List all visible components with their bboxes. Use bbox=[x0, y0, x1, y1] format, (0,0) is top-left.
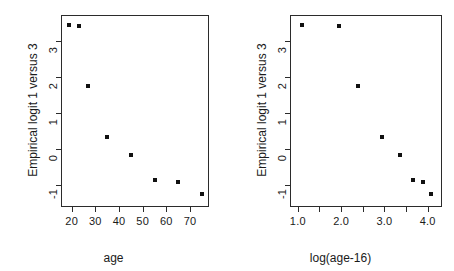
x-axis-tick-label: 60 bbox=[160, 215, 173, 227]
x-axis-tick bbox=[95, 207, 96, 212]
x-axis-tick-label: 50 bbox=[136, 215, 149, 227]
y-axis-tick-label: -1 bbox=[47, 183, 59, 205]
y-axis-tick-label: 1 bbox=[276, 111, 288, 133]
data-point bbox=[86, 84, 90, 88]
data-point bbox=[129, 153, 133, 157]
x-axis-tick-label: 4.0 bbox=[420, 215, 436, 227]
y-axis-tick-label: 1 bbox=[47, 111, 59, 133]
y-axis-tick-label: 2 bbox=[276, 75, 288, 97]
x-axis-tick bbox=[363, 207, 364, 212]
scatter-plot-figure: -10123203040506070 Empirical logit 1 ver… bbox=[0, 0, 454, 271]
x-axis-tick bbox=[143, 207, 144, 212]
x-axis-tick bbox=[166, 207, 167, 212]
y-axis-title-right: Empirical logit 1 versus 3 bbox=[255, 15, 269, 205]
data-point bbox=[67, 23, 71, 27]
data-point bbox=[398, 153, 402, 157]
x-axis-tick bbox=[319, 207, 320, 212]
x-axis-tick bbox=[190, 207, 191, 212]
x-axis-tick-label: 2.0 bbox=[333, 215, 349, 227]
x-axis-tick bbox=[119, 207, 120, 212]
x-axis-tick bbox=[341, 207, 342, 212]
y-axis-tick-label: -1 bbox=[276, 183, 288, 205]
x-axis-tick-label: 3.0 bbox=[376, 215, 392, 227]
data-point bbox=[200, 192, 204, 196]
data-point bbox=[380, 135, 384, 139]
x-axis-tick-label: 1.0 bbox=[290, 215, 306, 227]
plot-panel-age: -10123203040506070 Empirical logit 1 ver… bbox=[0, 0, 227, 271]
x-axis-tick bbox=[406, 207, 407, 212]
y-axis-tick-label: 0 bbox=[276, 147, 288, 169]
data-point bbox=[429, 192, 433, 196]
x-axis-tick bbox=[384, 207, 385, 212]
x-axis-tick-label: 40 bbox=[113, 215, 126, 227]
y-axis-title-left: Empirical logit 1 versus 3 bbox=[26, 15, 40, 205]
data-point bbox=[356, 84, 360, 88]
y-axis-tick-label: 3 bbox=[276, 39, 288, 61]
y-axis-tick-label: 3 bbox=[47, 39, 59, 61]
x-axis-tick-label: 70 bbox=[184, 215, 197, 227]
x-axis-tick bbox=[428, 207, 429, 212]
x-axis-tick bbox=[298, 207, 299, 212]
x-axis-title-right: log(age-16) bbox=[227, 251, 454, 265]
x-axis-title-left: age bbox=[0, 251, 227, 265]
data-point bbox=[77, 24, 81, 28]
data-point bbox=[300, 23, 304, 27]
data-point bbox=[421, 180, 425, 184]
plot-panel-log-age: -101231.02.03.04.0 Empirical logit 1 ver… bbox=[227, 0, 454, 271]
y-axis-tick-label: 0 bbox=[47, 147, 59, 169]
y-axis-tick-label: 2 bbox=[47, 75, 59, 97]
x-axis-tick bbox=[72, 207, 73, 212]
data-point bbox=[105, 135, 109, 139]
x-axis-tick-label: 30 bbox=[89, 215, 102, 227]
data-point bbox=[337, 24, 341, 28]
data-point bbox=[153, 178, 157, 182]
x-axis-tick-label: 20 bbox=[65, 215, 78, 227]
data-point bbox=[411, 178, 415, 182]
data-point bbox=[176, 180, 180, 184]
